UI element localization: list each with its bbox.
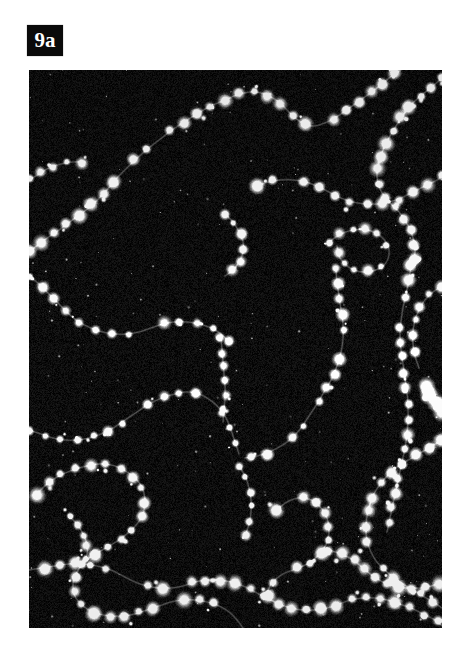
figure-container: 9a <box>0 0 469 655</box>
electron-micrograph-image <box>29 70 442 628</box>
micrograph-panel <box>29 70 442 628</box>
panel-label-9a: 9a <box>27 25 63 56</box>
